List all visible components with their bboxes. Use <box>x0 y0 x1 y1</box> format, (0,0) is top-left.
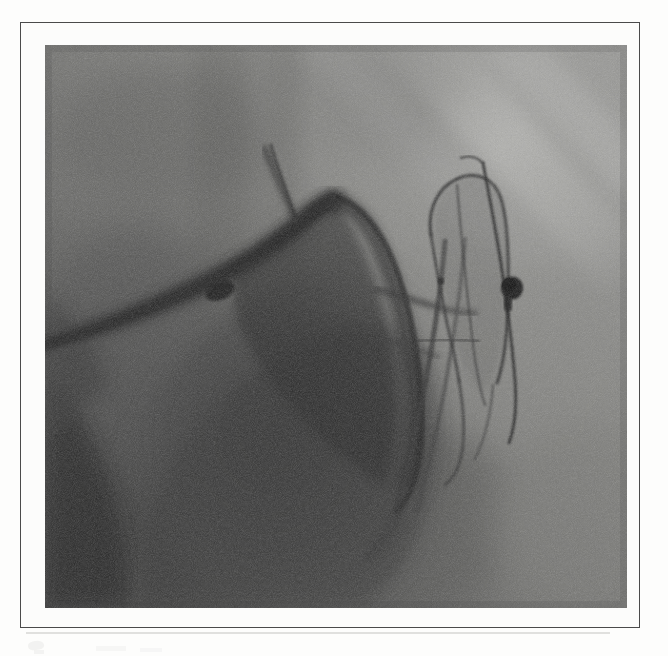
scan-smudge-mid-right <box>140 648 162 652</box>
xray-canvas <box>45 45 627 608</box>
figure-page: Coronary angiogram fluoroscopic still sh… <box>0 0 668 656</box>
scan-streak-baseline <box>26 632 610 634</box>
film-grain-overlay <box>45 45 627 608</box>
scan-smudge-mid <box>96 646 126 651</box>
figure-frame <box>20 22 640 628</box>
plate-mount <box>21 23 639 627</box>
xray-image <box>45 45 627 608</box>
scan-smudge-left-lower <box>34 650 44 654</box>
